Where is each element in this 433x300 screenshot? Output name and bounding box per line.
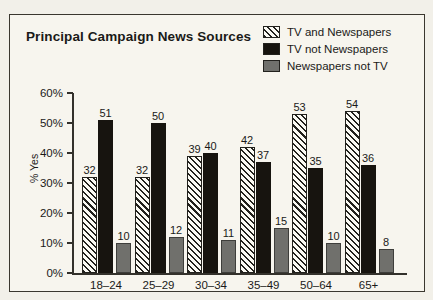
y-axis-tick [67, 242, 73, 243]
bar-group: 394011 [187, 93, 236, 273]
bar[interactable]: 10 [116, 243, 131, 273]
bar[interactable]: 32 [82, 177, 97, 273]
bar-value-label: 37 [257, 149, 269, 161]
bar-value-label: 10 [327, 230, 339, 242]
bar[interactable]: 42 [240, 147, 255, 273]
legend-label: TV not Newspapers [287, 43, 388, 55]
y-axis-tick-label: 30% [40, 177, 63, 189]
bar[interactable]: 35 [308, 168, 323, 273]
bar-value-label: 50 [152, 110, 164, 122]
bar-value-label: 35 [309, 155, 321, 167]
legend-item-tv-and-newspapers: TV and Newspapers [263, 24, 391, 41]
bar-group: 54368 [345, 93, 394, 273]
legend-item-tv-not-newspapers: TV not Newspapers [263, 41, 391, 58]
legend-item-newspapers-not-tv: Newspapers not TV [263, 58, 391, 75]
bar[interactable]: 54 [345, 111, 360, 273]
y-axis-tick [67, 182, 73, 183]
x-axis-tick-label: 18–24 [76, 279, 136, 291]
y-axis-tick-label: 50% [40, 117, 63, 129]
bar[interactable]: 10 [326, 243, 341, 273]
bar-value-label: 32 [83, 164, 95, 176]
bar-value-label: 10 [117, 230, 129, 242]
y-axis-title: % Yes [28, 154, 40, 183]
y-axis-tick-label: 0% [46, 267, 63, 279]
bar-value-label: 53 [293, 101, 305, 113]
bar-value-label: 36 [362, 152, 374, 164]
hatch-diagonal-swatch-icon [263, 26, 280, 38]
legend-label: Newspapers not TV [287, 60, 388, 72]
bar-group: 533510 [292, 93, 341, 273]
y-axis-tick [67, 92, 73, 93]
y-axis-tick [67, 272, 73, 273]
bar-group: 423715 [240, 93, 289, 273]
bar[interactable]: 36 [361, 165, 376, 273]
bar[interactable]: 39 [187, 156, 202, 273]
bar-group: 325012 [135, 93, 184, 273]
y-axis-tick-label: 10% [40, 237, 63, 249]
bar[interactable]: 12 [169, 237, 184, 273]
bar-value-label: 39 [188, 143, 200, 155]
y-axis-tick-label: 20% [40, 207, 63, 219]
bar-value-label: 8 [383, 236, 389, 248]
bar[interactable]: 51 [98, 120, 113, 273]
y-axis-tick [67, 212, 73, 213]
bar[interactable]: 32 [135, 177, 150, 273]
chart-figure: Principal Campaign News Sources TV and N… [9, 14, 425, 292]
bar-value-label: 32 [136, 164, 148, 176]
bar[interactable]: 40 [203, 153, 218, 273]
x-axis-tick-label: 65+ [339, 279, 399, 291]
bar[interactable]: 37 [256, 162, 271, 273]
bar-value-label: 12 [170, 224, 182, 236]
bar[interactable]: 8 [379, 249, 394, 273]
chart-legend: TV and Newspapers TV not Newspapers News… [263, 24, 391, 75]
x-axis-tick-label: 50–64 [286, 279, 346, 291]
bar-value-label: 51 [99, 107, 111, 119]
x-axis-tick-label: 30–34 [181, 279, 241, 291]
bar[interactable]: 11 [221, 240, 236, 273]
bar-value-label: 11 [223, 227, 234, 239]
chart-title: Principal Campaign News Sources [26, 29, 251, 44]
x-axis-tick-label: 25–29 [129, 279, 189, 291]
bar[interactable]: 50 [151, 123, 166, 273]
legend-label: TV and Newspapers [287, 26, 391, 38]
solid-gray-swatch-icon [263, 60, 280, 72]
y-axis-tick-label: 40% [40, 147, 63, 159]
bar[interactable]: 15 [274, 228, 289, 273]
bar-value-label: 15 [275, 215, 287, 227]
x-axis-tick-label: 35–49 [234, 279, 294, 291]
bar[interactable]: 53 [292, 114, 307, 273]
y-axis-tick [67, 122, 73, 123]
bar-value-label: 40 [204, 140, 216, 152]
y-axis-tick-label: 60% [40, 87, 63, 99]
x-axis-line [72, 273, 407, 275]
bar-value-label: 54 [346, 98, 358, 110]
y-axis-tick [67, 152, 73, 153]
bar-group: 325110 [82, 93, 131, 273]
plot-area: 0%10%20%30%40%50%60% 3251103250123940114… [72, 93, 407, 273]
solid-black-swatch-icon [263, 43, 280, 55]
bar-value-label: 42 [241, 134, 253, 146]
